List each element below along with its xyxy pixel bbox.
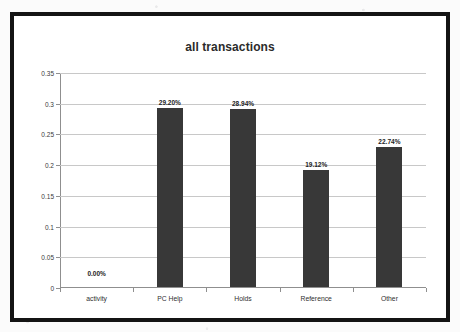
y-axis-tick-mark (56, 134, 60, 135)
x-axis-category-label: Other (381, 295, 398, 302)
y-axis-tick-mark (56, 165, 60, 166)
y-axis-tick-label: 0.35 (41, 70, 54, 77)
x-axis-line (60, 287, 426, 288)
bar[interactable] (376, 147, 402, 287)
x-axis-tick-mark (353, 288, 354, 292)
bar-value-label: 28.94% (232, 100, 254, 107)
y-axis-tick-label: 0.25 (41, 131, 54, 138)
y-axis-tick-mark (56, 73, 60, 74)
x-axis-tick-mark (206, 288, 207, 292)
x-axis-tick-mark (133, 288, 134, 292)
bar-value-label: 0.00% (87, 270, 105, 277)
bar-value-label: 19.12% (305, 161, 327, 168)
x-axis-category-label: Reference (301, 295, 332, 302)
x-axis-category-label: activity (86, 295, 107, 302)
y-axis-line (60, 73, 61, 288)
chart-frame: all transactions 00.050.10.150.20.250.30… (10, 12, 450, 322)
plot-area: 00.050.10.150.20.250.30.350.00%activity2… (60, 73, 426, 288)
bar[interactable] (303, 170, 329, 287)
x-axis-tick-mark (280, 288, 281, 292)
x-axis-tick-mark (60, 288, 61, 292)
bar-value-label: 29.20% (159, 99, 181, 106)
y-axis-tick-label: 0.2 (45, 162, 54, 169)
bar[interactable] (230, 109, 256, 287)
y-axis-tick-mark (56, 104, 60, 105)
y-axis-tick-label: 0 (50, 285, 54, 292)
y-axis-tick-label: 0.05 (41, 254, 54, 261)
bar[interactable] (157, 108, 183, 287)
y-axis-tick-label: 0.15 (41, 192, 54, 199)
chart-canvas: all transactions 00.050.10.150.20.250.30… (14, 16, 446, 318)
y-axis-tick-mark (56, 227, 60, 228)
x-axis-category-label: Holds (234, 295, 251, 302)
bar-value-label: 22.74% (378, 138, 400, 145)
y-axis-tick-mark (56, 196, 60, 197)
y-axis-tick-label: 0.1 (45, 223, 54, 230)
chart-title: all transactions (14, 40, 446, 54)
gridline (60, 73, 426, 74)
x-axis-category-label: PC Help (157, 295, 182, 302)
y-axis-tick-label: 0.3 (45, 100, 54, 107)
x-axis-tick-mark (426, 288, 427, 292)
y-axis-tick-mark (56, 257, 60, 258)
